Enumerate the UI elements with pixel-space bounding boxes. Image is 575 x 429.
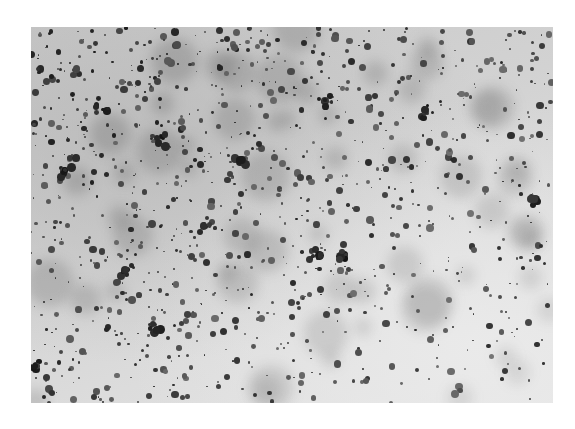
particle	[177, 377, 179, 379]
particle	[345, 87, 349, 91]
particle	[287, 342, 289, 344]
particle	[345, 111, 347, 113]
particle	[69, 62, 71, 64]
particle	[300, 197, 302, 199]
particle	[237, 255, 242, 260]
particle	[486, 139, 489, 142]
particle	[70, 72, 77, 79]
particle	[176, 228, 178, 230]
particle	[184, 311, 191, 318]
particle	[500, 377, 504, 381]
particle	[467, 210, 474, 217]
particle	[202, 169, 206, 173]
particle	[400, 36, 408, 44]
particle	[320, 247, 323, 250]
particle	[211, 182, 213, 184]
particle	[221, 88, 223, 90]
particle	[102, 401, 104, 403]
particle	[484, 192, 486, 194]
particle	[204, 161, 206, 163]
particle	[180, 299, 186, 305]
particle	[224, 71, 229, 76]
particle	[514, 336, 516, 338]
particle	[199, 51, 201, 53]
particle	[445, 317, 447, 319]
particle	[283, 256, 285, 258]
particle	[33, 350, 35, 352]
particle	[530, 59, 534, 63]
particle	[326, 234, 330, 238]
haze-blob	[537, 298, 553, 323]
particle	[92, 320, 94, 322]
particle	[57, 360, 62, 365]
particle	[353, 206, 359, 212]
particle	[248, 307, 250, 309]
particle-cluster	[61, 171, 65, 175]
haze-blob	[418, 37, 438, 57]
particle	[245, 40, 249, 44]
particle	[173, 268, 175, 270]
particle	[79, 348, 86, 355]
particle	[173, 281, 180, 288]
particle	[505, 39, 507, 41]
particle	[388, 186, 391, 189]
haze-blob	[90, 114, 130, 154]
particle	[185, 332, 192, 339]
haze-blob	[354, 318, 372, 336]
particle	[178, 118, 185, 125]
particle	[529, 138, 531, 140]
particle	[109, 77, 111, 79]
particle	[61, 375, 63, 377]
particle	[541, 34, 543, 36]
particle	[42, 395, 46, 399]
particle	[89, 246, 96, 253]
particle-cluster	[322, 103, 329, 110]
particle	[379, 122, 382, 125]
particle	[499, 77, 501, 79]
particle	[84, 117, 86, 119]
particle-cluster	[205, 216, 209, 220]
particle	[105, 51, 108, 54]
particle	[99, 153, 104, 158]
particle	[46, 45, 49, 48]
particle	[440, 72, 443, 75]
particle	[297, 266, 299, 268]
particle-cluster	[96, 96, 101, 101]
particle	[180, 125, 186, 131]
particle	[60, 62, 62, 64]
particle	[482, 125, 485, 128]
particle	[131, 70, 133, 72]
particle	[316, 27, 321, 31]
particle	[379, 178, 382, 181]
particle	[262, 259, 265, 262]
particle	[469, 307, 472, 310]
particle	[476, 65, 479, 68]
particle	[547, 73, 549, 75]
particle	[175, 175, 179, 179]
particle	[391, 63, 395, 67]
particle	[144, 91, 146, 93]
particle	[309, 296, 311, 298]
particle	[266, 42, 271, 47]
particle	[479, 124, 481, 126]
particle	[85, 98, 88, 101]
particle	[143, 44, 145, 46]
particle	[365, 159, 372, 166]
particle	[220, 205, 222, 207]
particle	[373, 269, 375, 271]
particle	[80, 264, 82, 266]
particle	[427, 336, 435, 344]
particle	[280, 343, 282, 345]
particle	[64, 154, 66, 156]
particle	[320, 243, 322, 245]
micrograph-image	[31, 27, 553, 403]
particle	[527, 111, 529, 113]
particle	[525, 319, 532, 326]
particle	[363, 378, 370, 385]
particle	[139, 124, 141, 126]
particle	[348, 119, 354, 125]
particle-cluster	[330, 100, 333, 103]
particle	[281, 202, 284, 205]
particle	[197, 161, 205, 169]
particle	[42, 236, 45, 239]
